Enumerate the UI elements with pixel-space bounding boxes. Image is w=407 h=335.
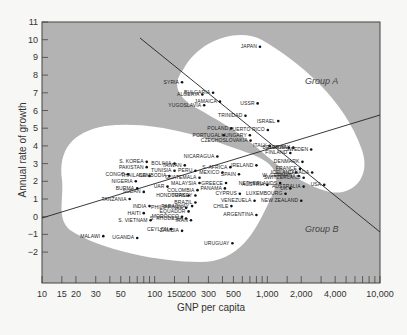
point-label: NICARAGUA [184, 153, 215, 159]
data-point [229, 166, 232, 169]
point-label: TRINIDAD [218, 112, 243, 118]
point-label: DENMARK [274, 158, 300, 164]
y-tick-label: −2 [28, 247, 38, 257]
point-label: AUSTRALIA [272, 183, 301, 189]
data-point [249, 139, 252, 142]
point-label: LUXEMBOURG [246, 190, 283, 196]
data-point [145, 166, 148, 169]
y-tick-label: 8 [33, 70, 38, 80]
data-point [255, 164, 258, 167]
data-point [190, 219, 193, 222]
data-point [149, 219, 152, 222]
data-point [201, 93, 204, 96]
data-point [256, 102, 259, 105]
point-label: MALAYSIA [171, 180, 197, 186]
data-point [196, 189, 199, 192]
data-point [203, 104, 206, 107]
data-point [289, 152, 292, 155]
data-point [231, 242, 234, 245]
data-point [194, 169, 197, 172]
data-point [277, 120, 280, 123]
data-point [136, 237, 139, 240]
data-point [212, 92, 215, 95]
point-label: AUSTRIA [242, 181, 265, 187]
data-point [216, 155, 219, 158]
point-label: CYPRUS [215, 190, 237, 196]
group-a-label: Group A [305, 76, 338, 86]
point-label: CAMBODIA [139, 172, 167, 178]
y-tick-label: 11 [29, 17, 38, 27]
x-tick-label: 20 [71, 289, 81, 299]
y-tick-label: 10 [28, 35, 38, 45]
point-label: MALAWI [80, 233, 100, 239]
data-point [181, 81, 184, 84]
x-tick-label: 4,000 [324, 289, 347, 299]
data-point [102, 235, 105, 238]
data-point [230, 205, 233, 208]
y-tick-label: 0 [33, 212, 38, 222]
data-point [266, 184, 269, 187]
point-label: TANZANIA [102, 196, 128, 202]
point-label: SPAIN [221, 171, 236, 177]
data-point [191, 205, 194, 208]
scatter-chart: 11109876543210−1−2 101520305010015020030… [0, 0, 407, 335]
point-label: ARGENTINA [223, 211, 254, 217]
data-point [284, 192, 287, 195]
data-point [194, 201, 197, 204]
x-tick-label: 15 [57, 289, 67, 299]
data-point [323, 184, 326, 187]
x-tick-label: 500 [226, 289, 241, 299]
x-tick-label: 200 [181, 289, 196, 299]
point-label: PAKISTAN [119, 164, 144, 170]
data-point [239, 192, 242, 195]
y-tick-label: −1 [28, 229, 38, 239]
x-tick-label: 300 [201, 289, 216, 299]
point-label: POLAND [207, 125, 228, 131]
point-label: ZAMBIA [160, 227, 180, 233]
data-point [219, 100, 222, 103]
point-label: URUGUAY [204, 240, 230, 246]
point-label: USSR [240, 100, 255, 106]
data-point [302, 185, 305, 188]
data-point [225, 182, 228, 185]
data-point [311, 171, 314, 174]
data-point [142, 191, 145, 194]
data-point [267, 129, 270, 132]
data-point [194, 194, 197, 197]
y-tick-label: 3 [33, 159, 38, 169]
data-point [301, 161, 304, 164]
data-point [173, 162, 176, 165]
data-point [249, 134, 252, 137]
x-tick-label: 10 [37, 289, 47, 299]
point-label: VENEZUELA [221, 197, 252, 203]
group-b-label: Group B [305, 224, 339, 234]
point-label: HAITI [127, 210, 140, 216]
data-point [168, 175, 171, 178]
x-tick-label: 50 [116, 289, 126, 299]
point-label: CZECHOSLOVAKIA [201, 137, 248, 143]
point-label: IRELAND [231, 162, 254, 168]
point-label: FINLAND [265, 149, 287, 155]
point-label: ISRAEL [257, 118, 276, 124]
data-point [187, 210, 190, 213]
x-tick-label: 10,000 [366, 289, 394, 299]
point-label: MEXICO [199, 169, 219, 175]
point-label: ALGERIA [177, 91, 200, 97]
y-tick-label: 9 [33, 52, 38, 62]
point-label: S. VIETNAM [118, 217, 147, 223]
data-point [259, 45, 262, 48]
data-point [253, 199, 256, 202]
y-tick-label: 5 [33, 123, 38, 133]
x-tick-label: 150 [167, 289, 182, 299]
data-point [181, 230, 184, 233]
data-point [238, 173, 241, 176]
data-point [244, 115, 247, 118]
point-label: IRAN [176, 217, 189, 223]
point-label: PERU [178, 167, 193, 173]
x-tick-label: 100 [147, 289, 162, 299]
data-point [142, 212, 145, 215]
data-point [128, 198, 131, 201]
point-label: JAPAN [241, 43, 258, 49]
point-label: UGANDA [112, 234, 135, 240]
point-label: NEW ZEALAND [261, 197, 299, 203]
